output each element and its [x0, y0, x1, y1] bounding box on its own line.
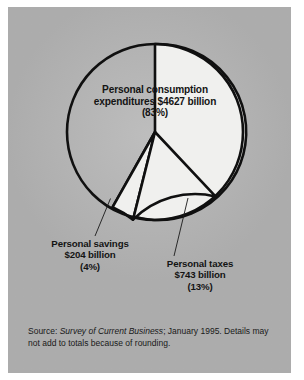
source-publication-title: Survey of Current Business: [60, 326, 163, 336]
figure-container: Personal consumption expenditures $4627 …: [0, 0, 304, 380]
pie-chart: Personal consumption expenditures $4627 …: [0, 0, 304, 380]
pie-chart-svg: [0, 0, 304, 380]
pie-label-personal-consumption-expenditures: Personal consumption expenditures $4627 …: [57, 84, 253, 119]
pie-label-personal-taxes: Personal taxes $743 billion (13%): [140, 258, 260, 292]
source-prefix: Source:: [28, 326, 60, 336]
pie-label-personal-savings: Personal savings $204 billion (4%): [30, 238, 150, 272]
source-note: Source: Survey of Current Business; Janu…: [28, 325, 276, 349]
